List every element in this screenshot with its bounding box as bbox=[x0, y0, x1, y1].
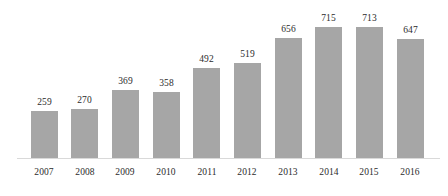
bar-value-label: 519 bbox=[240, 49, 255, 60]
bar-rect[interactable] bbox=[153, 92, 180, 158]
bar-value-label: 270 bbox=[77, 95, 92, 106]
x-tick-label: 2012 bbox=[224, 166, 270, 178]
bar-rect[interactable] bbox=[31, 111, 58, 158]
x-axis-line bbox=[17, 158, 440, 159]
x-tick-label: 2013 bbox=[265, 166, 311, 178]
bar-value-label: 656 bbox=[281, 24, 296, 35]
bar-rect[interactable] bbox=[397, 39, 424, 158]
x-axis: 2007 2008 2009 2010 2011 2012 2013 2014 … bbox=[0, 162, 448, 182]
x-tick-label: 2015 bbox=[346, 166, 392, 178]
x-tick-label: 2009 bbox=[102, 166, 148, 178]
bar-value-label: 647 bbox=[403, 25, 418, 36]
x-tick-label: 2010 bbox=[143, 166, 189, 178]
bar-value-label: 715 bbox=[321, 13, 336, 24]
bar-value-label: 259 bbox=[37, 97, 52, 108]
bar-rect[interactable] bbox=[112, 90, 139, 158]
bar-rect[interactable] bbox=[71, 109, 98, 158]
bar-value-label: 492 bbox=[199, 54, 214, 65]
bar-rect[interactable] bbox=[193, 68, 220, 158]
bar-rect[interactable] bbox=[315, 27, 342, 158]
bar-rect[interactable] bbox=[234, 63, 261, 158]
plot-area: 259 270 369 358 492 519 656 715 bbox=[0, 0, 448, 158]
bar-chart: 259 270 369 358 492 519 656 715 bbox=[0, 0, 448, 196]
bar-rect[interactable] bbox=[356, 27, 383, 158]
bar-rect[interactable] bbox=[275, 38, 302, 158]
x-tick-label: 2016 bbox=[387, 166, 433, 178]
bar-value-label: 358 bbox=[159, 78, 174, 89]
x-tick-label: 2007 bbox=[21, 166, 67, 178]
bar-value-label: 713 bbox=[362, 13, 377, 24]
bar-value-label: 369 bbox=[118, 76, 133, 87]
